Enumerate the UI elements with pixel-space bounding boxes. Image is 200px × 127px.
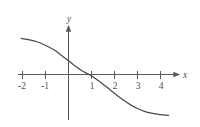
x-tick-label-2: 2 xyxy=(113,81,118,91)
plotted-curve xyxy=(21,38,168,115)
x-tick-label-1: 1 xyxy=(90,81,95,91)
x-tick-label-minus1: -1 xyxy=(41,81,49,91)
x-tick-label-3: 3 xyxy=(136,81,141,91)
x-tick-label-minus2: -2 xyxy=(18,81,26,91)
coordinate-plot-svg: -2 -1 1 2 3 4 x y xyxy=(0,0,200,127)
y-axis-name-label: y xyxy=(66,14,72,24)
x-axis-name-label: x xyxy=(182,70,188,80)
x-tick-label-4: 4 xyxy=(159,81,164,91)
graph-figure: -2 -1 1 2 3 4 x y xyxy=(0,0,200,127)
